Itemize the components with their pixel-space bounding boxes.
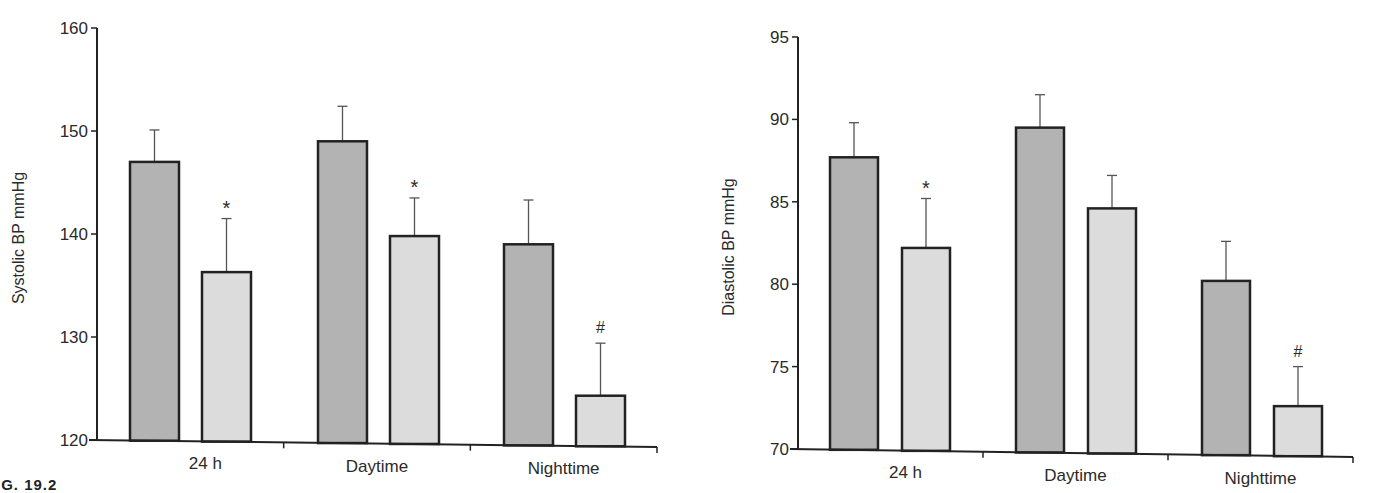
- y-axis-label: Diastolic BP mmHg: [720, 178, 737, 316]
- bar-nighttime-series-1: [504, 244, 553, 445]
- significance-hash: #: [1294, 343, 1303, 360]
- bar-nighttime-series-2: [576, 396, 625, 447]
- bar-daytime-series-1: [1016, 128, 1064, 453]
- systolic-bp-chart: **#12013014015016024 hDaytimeNighttimeSy…: [0, 0, 680, 488]
- y-tick-label: 70: [770, 440, 789, 459]
- y-tick-label: 120: [60, 431, 88, 450]
- x-category-label: 24 h: [889, 463, 922, 482]
- significance-asterisk: *: [411, 176, 419, 198]
- x-category-label: 24 h: [189, 454, 222, 473]
- y-tick-label: 160: [60, 19, 88, 38]
- significance-asterisk: *: [223, 197, 231, 219]
- bar-daytime-series-2: [390, 236, 439, 444]
- x-category-label: Daytime: [346, 457, 408, 476]
- x-axis: [790, 449, 1353, 457]
- x-axis: [89, 440, 657, 447]
- bar-24-h-series-2: [902, 248, 950, 451]
- y-tick-label: 95: [770, 28, 789, 47]
- y-tick-label: 80: [770, 275, 789, 294]
- x-category-label: Nighttime: [528, 459, 600, 478]
- y-tick-label: 90: [770, 110, 789, 129]
- y-tick-label: 85: [770, 193, 789, 212]
- y-tick-label: 150: [60, 122, 88, 141]
- diastolic-bp-chart: *#70758085909524 hDaytimeNighttimeDiasto…: [700, 0, 1387, 488]
- x-category-label: Daytime: [1044, 466, 1106, 485]
- x-category-label: Nighttime: [1225, 469, 1297, 488]
- bar-nighttime-series-1: [1202, 281, 1250, 455]
- y-tick-label: 75: [770, 358, 789, 377]
- y-tick-label: 140: [60, 225, 88, 244]
- significance-hash: #: [596, 319, 605, 336]
- y-tick-label: 130: [60, 328, 88, 347]
- diastolic-bp-plot: *#70758085909524 hDaytimeNighttimeDiasto…: [700, 0, 1387, 488]
- bar-daytime-series-2: [1088, 208, 1136, 453]
- bar-24-h-series-1: [130, 162, 179, 441]
- systolic-bp-plot: **#12013014015016024 hDaytimeNighttimeSy…: [0, 0, 680, 488]
- y-axis-label: Systolic BP mmHg: [10, 172, 27, 304]
- significance-asterisk: *: [922, 177, 930, 199]
- bar-daytime-series-1: [318, 141, 367, 443]
- bar-24-h-series-2: [202, 272, 251, 442]
- figure-caption-fragment: IG. 19.2: [0, 476, 57, 493]
- bar-24-h-series-1: [830, 157, 878, 450]
- bar-nighttime-series-2: [1274, 406, 1322, 456]
